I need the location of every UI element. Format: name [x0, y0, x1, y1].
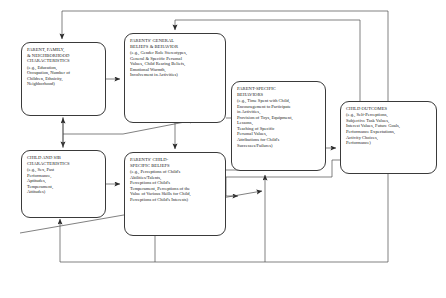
node-title: PARENTS' GENERAL BELIEFS & BEHAVIOR	[130, 38, 221, 49]
node-child-and-sib-characteristics[interactable]: CHILD AND SIB CHARACTERISTICS (e.g., Sex…	[21, 150, 106, 218]
node-examples: (e.g., Time Spent with Child, Encouragem…	[237, 98, 321, 148]
node-examples: (e.g., Education, Occupation, Number of …	[27, 65, 101, 87]
node-title: CHILD OUTCOMES	[346, 106, 432, 112]
node-title: PARENT-SPECIFIC BEHAVIORS	[237, 86, 321, 97]
diagram-canvas: PARENT, FAMILY, & NEIGHBORHOOD CHARACTER…	[0, 0, 446, 298]
node-examples: (e.g., Sex, Past Performance, Aptitudes,…	[27, 167, 101, 195]
node-title: PARENT, FAMILY, & NEIGHBORHOOD CHARACTER…	[27, 47, 101, 64]
node-parents-general-beliefs[interactable]: PARENTS' GENERAL BELIEFS & BEHAVIOR (e.g…	[124, 33, 226, 123]
node-examples: (e.g., Perceptions of Child's Abilities/…	[130, 169, 221, 203]
node-parent-family-neighborhood[interactable]: PARENT, FAMILY, & NEIGHBORHOOD CHARACTER…	[21, 42, 106, 116]
node-examples: (e.g., Self-Perceptions, Subjective Task…	[346, 112, 432, 146]
node-child-outcomes[interactable]: CHILD OUTCOMES (e.g., Self-Perceptions, …	[340, 101, 437, 174]
node-parents-child-specific-beliefs[interactable]: PARENTS' CHILD- SPECIFIC BELIEFS (e.g., …	[124, 152, 226, 236]
node-parent-specific-behaviors[interactable]: PARENT-SPECIFIC BEHAVIORS (e.g., Time Sp…	[231, 81, 326, 171]
node-title: CHILD AND SIB CHARACTERISTICS	[27, 155, 101, 166]
node-title: PARENTS' CHILD- SPECIFIC BELIEFS	[130, 157, 221, 168]
node-examples: (e.g., Gender Role Stereotypes, General …	[130, 50, 221, 78]
